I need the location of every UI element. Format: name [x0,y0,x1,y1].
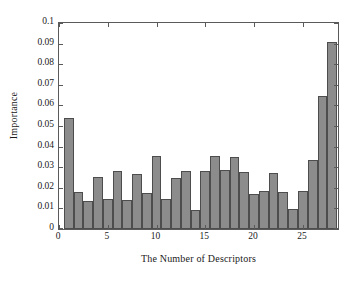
bar [210,156,220,229]
x-axis-tick-label: 25 [297,232,307,242]
bar [161,199,171,229]
bar [288,209,298,229]
bar [249,194,259,229]
y-axis-tick-mark-right [334,44,338,45]
bar [132,174,142,229]
bar [269,173,279,229]
bar [74,192,84,229]
y-axis-tick-mark-right [334,208,338,209]
y-axis-tick-label: 0.03 [37,161,54,171]
y-axis-tick-mark-right [334,228,338,229]
y-axis-tick-mark-right [334,188,338,189]
x-axis-tick-mark-top [205,23,206,27]
bar [142,193,152,229]
y-axis-tick-mark-right [334,85,338,86]
x-axis-tick-label: 15 [200,232,210,242]
bar [239,172,249,229]
y-axis-tick-label: 0.06 [37,100,54,110]
bar [200,171,210,229]
x-axis-tick-mark [59,225,60,229]
y-axis-tick-label: 0.02 [37,182,54,192]
bar [181,171,191,229]
bar [259,191,269,229]
bar [122,200,132,229]
bar [113,171,123,229]
x-axis-tick-mark-top [108,23,109,27]
y-axis-tick-label: 0 [49,223,54,233]
y-axis-tick-label: 0.07 [37,79,54,89]
y-axis-tick-label: 0.1 [42,17,54,27]
bar [278,192,288,229]
x-axis-tick-label: 5 [104,232,109,242]
y-axis-tick-mark [59,105,63,106]
bar [152,156,162,229]
x-axis-tick-mark [157,225,158,229]
y-axis-title-text: Importance [9,91,20,139]
bar [191,210,201,229]
x-axis-tick-label: 0 [56,232,61,242]
y-axis-tick-mark-right [334,147,338,148]
x-axis-tick-labels: 0510152025 [58,232,339,246]
bar [171,178,181,229]
x-axis-tick-mark-top [254,23,255,27]
bar-series [59,23,338,229]
y-axis-tick-label: 0.01 [37,203,54,213]
bar [230,157,240,229]
bar [318,96,328,229]
x-axis-tick-label: 10 [151,232,161,242]
y-axis-tick-mark-right [334,105,338,106]
y-axis-tick-mark [59,167,63,168]
y-axis-tick-mark-right [334,126,338,127]
x-axis-tick-mark-top [303,23,304,27]
y-axis-tick-mark [59,147,63,148]
y-axis-tick-mark [59,126,63,127]
x-axis-tick-mark [303,225,304,229]
x-axis-title: The Number of Descriptors [58,253,339,264]
y-axis-tick-mark [59,208,63,209]
y-axis-tick-mark [59,85,63,86]
plot-area [58,22,339,230]
y-axis-tick-mark [59,44,63,45]
bar [93,177,103,229]
bar [83,201,93,229]
y-axis-tick-label: 0.05 [37,120,54,130]
x-axis-tick-mark-top [59,23,60,27]
y-axis-tick-mark [59,188,63,189]
y-axis-tick-label: 0.04 [37,141,54,151]
x-axis-tick-mark [108,225,109,229]
y-axis-tick-label: 0.08 [37,58,54,68]
bar [308,160,318,229]
y-axis-tick-mark [59,64,63,65]
y-axis-tick-mark-right [334,167,338,168]
bar [220,170,230,229]
x-axis-tick-mark-top [157,23,158,27]
bar [64,118,74,229]
y-axis-tick-mark-right [334,23,338,24]
x-axis-tick-mark [205,225,206,229]
y-axis-tick-labels: 00.010.020.030.040.050.060.070.080.090.1 [20,22,54,230]
x-axis-tick-label: 20 [248,232,258,242]
bar [327,42,337,229]
y-axis-tick-mark-right [334,64,338,65]
x-axis-tick-mark [254,225,255,229]
y-axis-tick-label: 0.09 [37,38,54,48]
bar [298,191,308,229]
bar-chart-figure: Importance 00.010.020.030.040.050.060.07… [0,0,357,287]
